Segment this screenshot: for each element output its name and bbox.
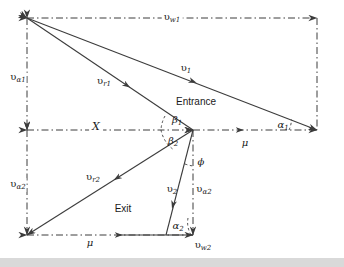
label-mu-top: μ xyxy=(242,138,249,148)
label-entrance: Entrance xyxy=(176,97,216,107)
label-phi: ϕ xyxy=(198,157,205,167)
arc-alpha2 xyxy=(188,218,191,235)
label-va2-center-subscript: α2 xyxy=(202,188,211,196)
label-x-distance: X xyxy=(89,121,103,132)
label-v2-subscript: 2 xyxy=(173,188,177,196)
label-alpha1-symbol: α xyxy=(277,119,284,130)
label-beta2: β2 xyxy=(168,136,178,148)
label-alpha1-subscript: 1 xyxy=(284,124,288,132)
label-vr1: υr1 xyxy=(97,76,111,88)
label-alpha2-symbol: α xyxy=(172,220,179,231)
label-mu-bottom-symbol: μ xyxy=(87,237,94,248)
label-v1: υ1 xyxy=(181,63,192,75)
arc-beta1 xyxy=(161,116,165,130)
label-exit: Exit xyxy=(115,204,132,214)
label-vw1-subscript: w1 xyxy=(170,16,180,24)
footer-band xyxy=(0,258,344,267)
label-v2: υ2 xyxy=(167,184,178,196)
label-va2-left-subscript: α2 xyxy=(16,183,25,191)
label-beta2-subscript: 2 xyxy=(174,140,178,148)
label-alpha2-subscript: 2 xyxy=(179,225,183,233)
label-va2-left: υα2 xyxy=(9,178,26,192)
label-vw2-subscript: w2 xyxy=(201,244,211,252)
label-va2-center: υα2 xyxy=(194,184,213,196)
label-va1-subscript: α1 xyxy=(16,76,25,84)
label-vw2: υw2 xyxy=(195,240,212,252)
label-alpha2: α2 xyxy=(172,221,183,233)
angle-arcs xyxy=(161,116,292,235)
label-va1: υα1 xyxy=(9,71,26,85)
arc-alpha1 xyxy=(289,120,292,131)
label-vr2-subscript: r2 xyxy=(92,176,100,184)
label-alpha1: α1 xyxy=(277,120,288,132)
label-phi-symbol: ϕ xyxy=(198,156,205,167)
label-v1-subscript: 1 xyxy=(187,67,191,75)
velocity-triangle-figure: υw1 υα1 υ1 υr1 Entrance X β1 β2 α1 μ ϕ υ… xyxy=(0,0,344,267)
label-mu-top-symbol: μ xyxy=(242,137,249,148)
label-beta1-subscript: 1 xyxy=(178,119,182,127)
label-vw1: υw1 xyxy=(162,12,183,24)
label-vr1-subscript: r1 xyxy=(103,80,111,88)
arc-phi xyxy=(185,164,193,166)
label-mu-bottom: μ xyxy=(87,238,94,248)
vector-vr1 xyxy=(27,18,193,130)
label-vr2: υr2 xyxy=(86,172,100,184)
label-beta1: β1 xyxy=(172,115,182,127)
